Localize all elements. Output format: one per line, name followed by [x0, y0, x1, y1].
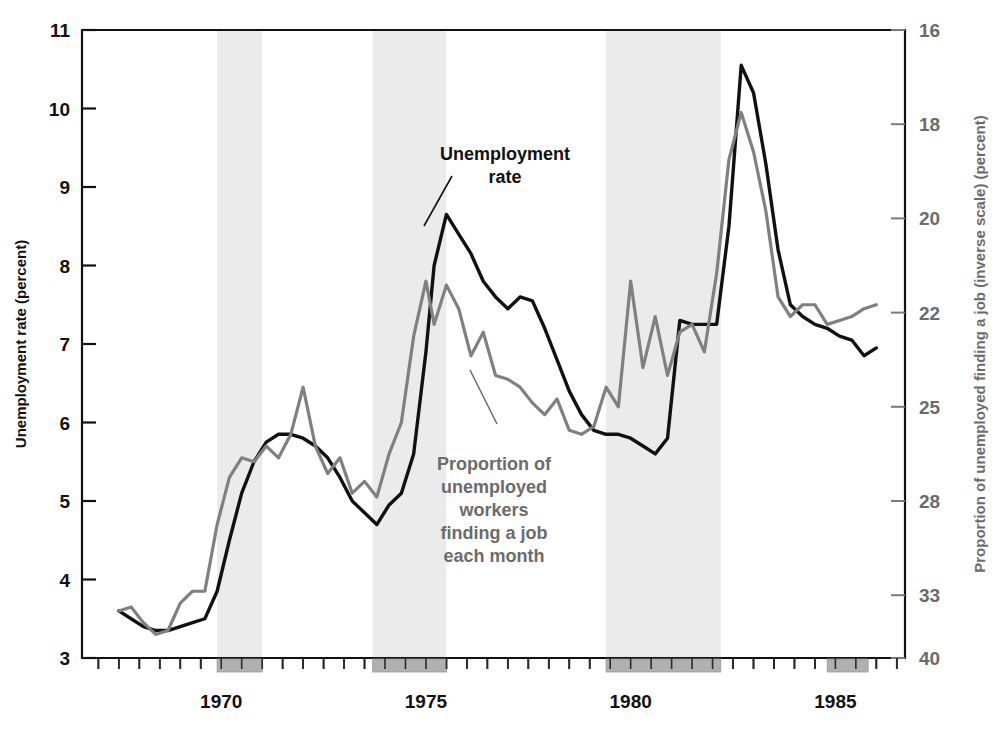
unemployment-rate-annotation: rate [488, 167, 521, 187]
recession-axis-bar [373, 659, 447, 672]
y2-axis-tick-label: 22 [919, 303, 940, 324]
recession-axis-bar [606, 659, 721, 672]
job-finding-annotation: Proportion of [437, 454, 552, 474]
chart-canvas: 3456789101116182022252833401970197519801… [0, 0, 1005, 738]
x-axis-tick-label: 1970 [200, 691, 242, 712]
y-axis-tick-label: 4 [59, 570, 70, 591]
job-finding-annotation: each month [443, 546, 544, 566]
y2-axis-title: Proportion of unemployed finding a job (… [971, 115, 988, 573]
recession-band [373, 30, 447, 658]
y2-axis-tick-label: 16 [919, 20, 940, 41]
y-axis-title: Unemployment rate (percent) [12, 240, 29, 448]
y-axis-tick-label: 11 [50, 20, 71, 41]
chart-figure: 3456789101116182022252833401970197519801… [0, 0, 1005, 738]
y2-axis-tick-label: 18 [919, 114, 940, 135]
y-axis-tick-label: 3 [59, 648, 70, 669]
y2-axis-tick-label: 28 [919, 491, 940, 512]
y-axis-tick-label: 6 [59, 413, 70, 434]
job-finding-annotation: workers [458, 500, 528, 520]
y-axis-tick-label: 5 [59, 491, 70, 512]
job-finding-annotation: finding a job [441, 523, 548, 543]
y2-axis-tick-label: 40 [919, 648, 940, 669]
y-axis-tick-label: 10 [49, 99, 70, 120]
job-finding-annotation: unemployed [441, 477, 547, 497]
y-axis-tick-label: 8 [59, 256, 70, 277]
recession-axis-bar [827, 659, 868, 672]
job-finding-leader-line [470, 370, 497, 424]
y2-axis-tick-label: 33 [919, 585, 940, 606]
y-axis-tick-label: 9 [59, 177, 70, 198]
y2-axis-tick-label: 20 [919, 208, 940, 229]
unemployment-rate-annotation: Unemployment [440, 144, 570, 164]
x-axis-tick-label: 1985 [814, 691, 857, 712]
x-axis-tick-label: 1980 [610, 691, 652, 712]
x-axis-tick-label: 1975 [405, 691, 448, 712]
y2-axis-tick-label: 25 [919, 397, 941, 418]
y-axis-tick-label: 7 [59, 334, 70, 355]
recession-axis-bar [217, 659, 262, 672]
